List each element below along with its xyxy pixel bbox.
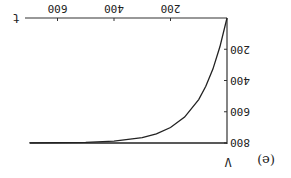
x-tick-label-400: 400 [104,2,124,15]
data-curve [29,18,227,143]
y-axis-label: V [224,155,231,169]
y-tick-label-200: 200 [230,43,250,56]
chart-figure: 200 400 600 200 400 600 800 t V (e) [0,0,291,178]
y-tick-label-400: 400 [230,74,250,87]
x-tick-label-600: 600 [48,2,68,15]
x-axis-label: t [12,11,19,25]
panel-label: (e) [257,153,275,168]
y-tick-label-600: 600 [230,105,250,118]
y-tick-label-800: 800 [230,136,250,149]
chart-svg: 200 400 600 200 400 600 800 t V (e) [0,0,291,178]
x-tick-label-200: 200 [161,2,181,15]
